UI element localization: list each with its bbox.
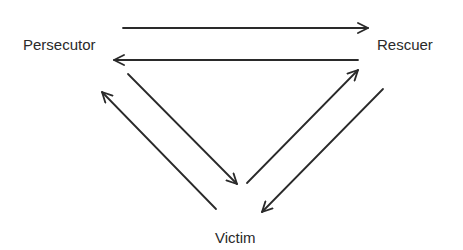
edges-group xyxy=(102,28,383,212)
node-label-rescuer: Rescuer xyxy=(377,36,433,53)
arrow-victim-to-rescuer xyxy=(247,70,358,183)
node-label-persecutor: Persecutor xyxy=(23,36,96,53)
node-label-victim: Victim xyxy=(215,229,256,246)
arrow-persecutor-to-victim xyxy=(128,74,237,184)
drama-triangle-diagram: Persecutor Rescuer Victim xyxy=(0,0,463,250)
arrow-victim-to-persecutor xyxy=(102,92,216,209)
